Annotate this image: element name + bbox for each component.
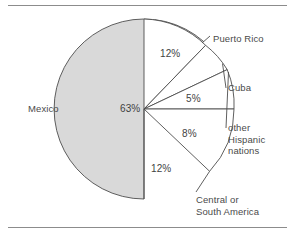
pie-value-mexico: 63% bbox=[120, 103, 140, 114]
leader-line-central-or-south-america bbox=[196, 171, 210, 192]
pie-value-puerto-rico: 12% bbox=[160, 48, 180, 59]
pie-label-other-hispanic-nations: other Hispanic nations bbox=[228, 122, 265, 157]
pie-slice-central-or-south-america[interactable] bbox=[144, 109, 234, 171]
pie-label-puerto-rico: Puerto Rico bbox=[213, 33, 264, 45]
pie-value-central-or-south-america: 12% bbox=[151, 163, 171, 174]
pie-value-cuba: 5% bbox=[186, 93, 201, 104]
pie-label-cuba: Cuba bbox=[228, 82, 251, 94]
pie-label-mexico: Mexico bbox=[28, 103, 59, 115]
leader-line-puerto-rico bbox=[203, 36, 210, 43]
pie-chart-figure: Mexico Puerto Rico Cuba other Hispanic n… bbox=[0, 0, 295, 233]
pie-label-central-or-south-america: Central or South America bbox=[196, 194, 259, 217]
pie-value-other-hispanic-nations: 8% bbox=[182, 128, 197, 139]
